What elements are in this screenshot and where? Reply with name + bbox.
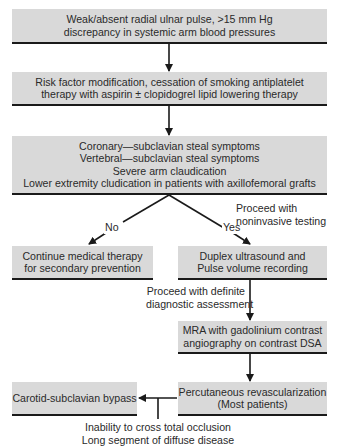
label-text: Long segment of diffuse disease (80, 434, 236, 446)
node-mra: MRA with gadolinium contrast angiography… (178, 321, 327, 354)
edge-label-noninvasive: Proceed with noninvasive testing (236, 202, 326, 227)
node-text: MRA with gadolinium contrast (183, 324, 323, 337)
node-text: Pulse volume recording (197, 262, 308, 275)
node-text: (Most patients) (217, 398, 287, 411)
label-text: Inability to cross total occlusion (80, 421, 236, 434)
node-symptoms: Coronary—subclavian steal symptoms Verte… (12, 136, 327, 195)
label-text: diagnostic assessment (146, 298, 245, 311)
node-text: Vertebral—subclavian steal symptoms (80, 152, 260, 165)
edge-label-no: No (104, 221, 120, 234)
edge-label-definite: Proceed with definite diagnostic assessm… (146, 285, 245, 310)
label-text: Proceed with definite (146, 285, 245, 298)
node-text: Duplex ultrasound and (199, 250, 305, 263)
node-text: Coronary—subclavian steal symptoms (79, 140, 260, 153)
node-duplex: Duplex ultrasound and Pulse volume recor… (178, 246, 327, 280)
node-bypass: Carotid-subclavian bypass (12, 382, 137, 416)
node-percutaneous: Percutaneous revascularization (Most pat… (178, 382, 327, 416)
arrow-yes (233, 233, 250, 244)
line-no-upper (123, 195, 169, 222)
node-text: for secondary prevention (24, 262, 141, 275)
node-risk-modification: Risk factor modification, cessation of s… (12, 72, 327, 106)
node-presentation: Weak/absent radial ulnar pulse, >15 mm H… (12, 9, 327, 44)
edge-label-bypass-reason: Inability to cross total occlusion Long … (80, 421, 236, 446)
node-text: Risk factor modification, cessation of s… (35, 76, 304, 89)
node-text: Continue medical therapy (22, 250, 142, 263)
node-continue-therapy: Continue medical therapy for secondary p… (12, 246, 153, 280)
label-text: Proceed with (236, 202, 326, 215)
node-text: Percutaneous revascularization (179, 386, 327, 399)
node-text: Lower extremity cludication in patients … (23, 177, 316, 190)
node-text: Weak/absent radial ulnar pulse, >15 mm H… (66, 13, 272, 26)
label-text: noninvasive testing (236, 215, 326, 228)
node-text: angiography on contrast DSA (183, 337, 321, 350)
node-text: therapy with aspirin ± clopidogrel lipid… (41, 88, 298, 101)
node-text: Carotid-subclavian bypass (12, 392, 136, 405)
line-yes-upper (169, 195, 224, 228)
node-text: Severe arm claudication (113, 165, 227, 178)
node-text: discrepancy in systemic arm blood pressu… (64, 26, 275, 39)
